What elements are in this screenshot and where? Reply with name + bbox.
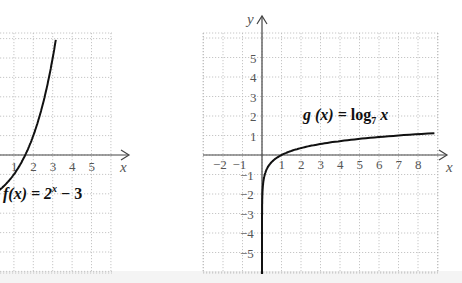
x-tick-label: −2 [213,157,227,172]
graphs-canvas: x12345f(x) = 2x − 3 yx−2−11234567854321−… [0,0,462,283]
left-graph: x12345f(x) = 2x − 3 [0,33,129,273]
x-tick-label: 7 [396,157,403,172]
y-tick-label: 2 [250,109,257,124]
y-tick-label: −4 [240,226,254,241]
x-tick-label: 2 [298,157,305,172]
y-axis-label: y [245,11,254,27]
x-tick-label: 3 [50,159,57,174]
x-tick-label: 3 [318,157,325,172]
x-tick-label: 5 [89,159,96,174]
right-graph: yx−2−11234567854321−1−2−3−4−5g (x) = log… [203,11,453,274]
y-tick-label: 4 [250,70,257,85]
x-tick-label: 8 [415,157,422,172]
x-axis-label: x [119,159,127,175]
y-tick-label: 3 [250,90,257,105]
x-axis-label: x [445,159,453,175]
y-tick-label: 5 [250,51,257,66]
f-equation-label: f(x) = 2x − 3 [3,183,82,203]
x-tick-label: 4 [337,157,344,172]
x-tick-label: 6 [376,157,383,172]
y-tick-label: 1 [250,129,257,144]
x-tick-label: 1 [279,157,286,172]
x-tick-label: 2 [30,159,37,174]
f-curve [0,40,56,201]
y-tick-label: −5 [240,246,254,261]
g-equation-label: g (x) = log7 x [302,106,388,126]
y-tick-label: −3 [240,207,254,222]
y-tick-label: −2 [240,187,254,202]
y-tick-label: −1 [240,168,254,183]
x-tick-label: 5 [357,157,364,172]
x-tick-label: 4 [69,159,76,174]
